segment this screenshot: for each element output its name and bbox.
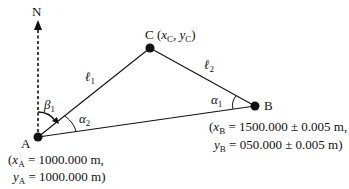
side-l2	[150, 48, 255, 106]
point-b-icon	[251, 102, 260, 111]
side-l1-label: ℓ1	[85, 69, 95, 84]
a-y-val: = 1000.000 m)	[25, 169, 105, 184]
point-b-coord-x: (xB = 1500.000 ± 0.005 m,	[209, 119, 347, 134]
point-b-coord-y: yB = 050.000 ± 0.005 m)	[214, 137, 342, 152]
l1-sub: 1	[90, 76, 95, 86]
l2-sub: 2	[209, 64, 214, 74]
b-x-val: = 1500.000 ± 0.005 m,	[225, 119, 347, 134]
side-l2-label: ℓ2	[204, 57, 214, 72]
alpha1-label: α1	[211, 92, 222, 107]
point-c-label: C (xC, yC)	[145, 27, 196, 42]
alpha1-arc	[232, 96, 236, 109]
a-x-val: = 1000.000 m,	[25, 152, 104, 167]
alpha1-sub: 1	[218, 99, 223, 109]
alpha2-symbol: α	[79, 111, 86, 126]
c-coord-close: )	[191, 27, 195, 42]
point-a-coord-y: yA = 1000.000 m)	[13, 169, 106, 184]
alpha2-label: α2	[79, 111, 90, 126]
north-arrow-icon	[34, 20, 42, 30]
alpha1-symbol: α	[211, 92, 218, 107]
point-b-name: B	[264, 98, 273, 113]
point-c-name: C	[145, 27, 154, 42]
north-label: N	[32, 4, 41, 19]
point-a-coord-x: (xA = 1000.000 m,	[8, 152, 104, 167]
point-a-name: A	[21, 136, 30, 151]
b-y-val: = 050.000 ± 0.005 m)	[226, 137, 343, 152]
point-c-icon	[146, 44, 155, 53]
beta1-label: β1	[44, 97, 55, 112]
point-a-icon	[34, 133, 43, 142]
alpha2-sub: 2	[86, 118, 91, 128]
beta1-sub: 1	[50, 104, 55, 114]
alpha2-arc	[65, 116, 76, 132]
